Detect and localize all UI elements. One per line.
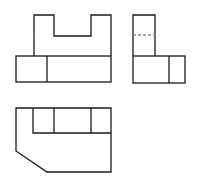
orthographic-drawing bbox=[0, 0, 200, 189]
front-view-upper-outline bbox=[34, 15, 111, 56]
side-view bbox=[133, 15, 185, 83]
front-view-base bbox=[16, 56, 111, 82]
top-view-inner-recess bbox=[33, 108, 111, 133]
top-view bbox=[16, 108, 111, 172]
front-view bbox=[16, 15, 111, 82]
side-view-base bbox=[133, 56, 185, 83]
top-view-outline bbox=[16, 108, 111, 172]
